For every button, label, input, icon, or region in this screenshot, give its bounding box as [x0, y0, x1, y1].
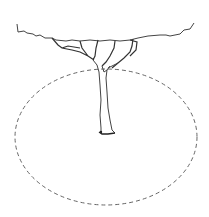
- tree-trunk-right: [106, 66, 115, 133]
- canopy-top-edge: [17, 23, 194, 41]
- tree-diagram: [0, 0, 209, 217]
- tree-drawing: [0, 0, 209, 217]
- canopy-branches: [52, 38, 137, 68]
- root-zone-ellipse: [15, 69, 197, 205]
- trunk-base-mark: [100, 131, 102, 133]
- tree-trunk-left: [93, 60, 101, 132]
